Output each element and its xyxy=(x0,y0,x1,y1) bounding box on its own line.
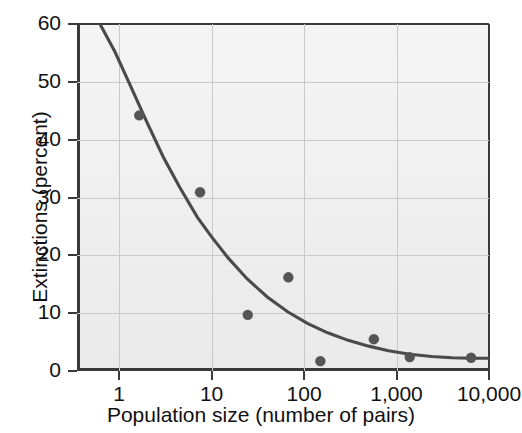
x-tick-mark xyxy=(211,371,213,380)
data-point xyxy=(243,310,253,320)
x-tick-label: 1 xyxy=(113,383,125,405)
x-tick-mark xyxy=(303,371,305,380)
y-tick-mark xyxy=(68,23,77,25)
data-point xyxy=(195,187,205,197)
y-tick-mark xyxy=(68,81,77,83)
data-point xyxy=(466,353,476,363)
data-point xyxy=(283,272,293,282)
y-tick-label-text: 0 xyxy=(49,359,61,381)
fit-curve xyxy=(100,24,489,358)
data-point xyxy=(315,356,325,366)
y-tick-label-text: 60 xyxy=(38,12,61,34)
data-point xyxy=(369,334,379,344)
x-tick-mark xyxy=(118,371,120,380)
data-point xyxy=(134,110,144,120)
x-tick-label: 100 xyxy=(287,383,322,405)
x-axis-title: Population size (number of pairs) xyxy=(0,404,522,426)
y-axis-title: Extinctions (percent) xyxy=(29,47,51,367)
x-tick-label: 10 xyxy=(200,383,223,405)
x-tick-mark xyxy=(396,371,398,380)
data-point xyxy=(405,352,415,362)
y-tick-mark xyxy=(68,197,77,199)
y-tick-mark xyxy=(68,370,77,372)
y-tick-mark xyxy=(68,139,77,141)
x-tick-label: 10,000 xyxy=(457,383,521,405)
data-layer xyxy=(77,24,489,371)
data-points xyxy=(134,110,476,366)
y-tick-mark xyxy=(68,312,77,314)
y-tick-mark xyxy=(68,254,77,256)
x-tick-mark xyxy=(488,371,490,380)
chart-figure: 0102030405060 1101001,00010,000 Extincti… xyxy=(0,0,522,433)
x-tick-label: 1,000 xyxy=(370,383,423,405)
